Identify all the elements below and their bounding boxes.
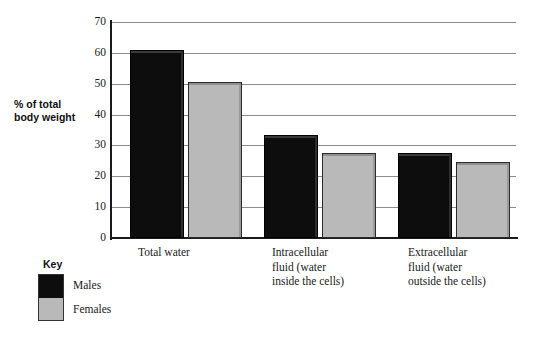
legend-labels: Males Females	[73, 274, 111, 321]
bar-males-2	[398, 153, 452, 238]
x-category-label-line: inside the cells)	[272, 274, 344, 289]
x-axis-category-labels: Total waterIntracellularfluid (waterinsi…	[110, 245, 520, 305]
y-tick-label-30: 30	[80, 139, 106, 150]
bars-layer	[112, 22, 516, 238]
y-tick-label-0: 0	[80, 232, 106, 243]
chart-legend: Key Males Females	[33, 258, 153, 321]
y-tick-label-70: 70	[80, 16, 106, 27]
bar-females-2	[456, 162, 510, 238]
legend-swatch-females	[39, 298, 63, 321]
x-category-label-1: Intracellularfluid (waterinside the cell…	[272, 245, 344, 289]
x-category-label-line: fluid (water	[408, 260, 486, 275]
x-category-label-line: Intracellular	[272, 245, 344, 260]
y-tick-label-40: 40	[80, 109, 106, 120]
y-axis-tick-labels: 010203040506070	[78, 22, 106, 238]
y-tick-label-10: 10	[80, 201, 106, 212]
legend-label-females: Females	[73, 298, 111, 322]
x-category-label-2: Extracellularfluid (wateroutside the cel…	[408, 245, 486, 289]
y-tick-label-50: 50	[80, 78, 106, 89]
bar-chart-figure: % of total body weight 010203040506070 T…	[0, 0, 533, 357]
legend-swatch-box	[38, 274, 64, 321]
x-category-label-line: outside the cells)	[408, 274, 486, 289]
legend-label-males: Males	[73, 274, 111, 298]
bar-males-0	[130, 50, 184, 238]
x-category-label-line: Extracellular	[408, 245, 486, 260]
bar-females-1	[322, 153, 376, 238]
legend-title: Key	[43, 258, 153, 270]
y-tick-label-20: 20	[80, 170, 106, 181]
legend-swatch-males	[39, 275, 63, 298]
x-category-label-line: fluid (water	[272, 260, 344, 275]
legend-body: Males Females	[33, 274, 153, 321]
bar-males-1	[264, 135, 318, 238]
y-tick-label-60: 60	[80, 47, 106, 58]
bar-females-0	[188, 82, 242, 238]
